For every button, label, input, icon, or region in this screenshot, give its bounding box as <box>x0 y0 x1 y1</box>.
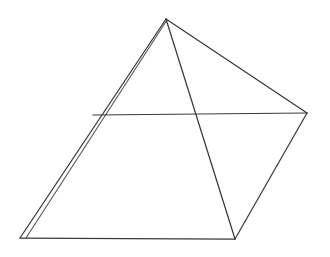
canvas-background <box>0 0 330 257</box>
pyramid-wireframe-svg <box>0 0 330 257</box>
pyramid-figure-canvas <box>0 0 330 257</box>
